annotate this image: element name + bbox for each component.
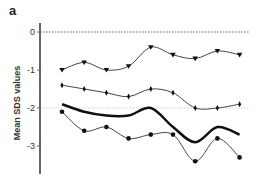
circle-marker [193,159,198,164]
circle-marker [237,155,242,160]
diamond-marker [127,94,130,100]
diamond-marker [216,105,219,111]
y-tick-label: -1 [27,65,35,75]
diamond-marker [238,101,241,107]
triangle-marker [126,64,132,69]
diamond-marker [171,90,174,96]
triangle-series-line [62,47,240,70]
diamond-marker [60,82,63,88]
circle-marker [126,136,131,141]
circle-marker [104,125,109,130]
circle-marker [215,136,220,141]
diamond-marker [194,105,197,111]
diamond-marker [149,86,152,92]
diamond-marker [105,90,108,96]
line-chart: 0-1-2-3 [0,0,271,174]
circle-marker [60,110,65,115]
circle-marker [82,129,87,134]
y-tick-label: -2 [27,103,35,113]
triangle-marker [237,53,243,58]
circle-marker [171,132,176,137]
y-tick-label: -3 [27,141,35,151]
y-tick-label: 0 [30,27,35,37]
diamond-marker [83,86,86,92]
triangle-marker [59,68,65,73]
circle-marker [149,132,154,137]
